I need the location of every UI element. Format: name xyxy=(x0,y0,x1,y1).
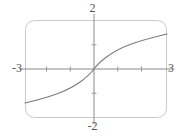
y-axis-max-label: 2 xyxy=(0,2,185,14)
x-axis-max-label: 3 xyxy=(168,62,184,74)
plot-canvas xyxy=(0,0,185,137)
math-plot-figure: 2 -2 -3 3 xyxy=(0,0,185,137)
y-axis-min-label: -2 xyxy=(0,120,185,132)
x-axis-min-label: -3 xyxy=(2,62,22,74)
